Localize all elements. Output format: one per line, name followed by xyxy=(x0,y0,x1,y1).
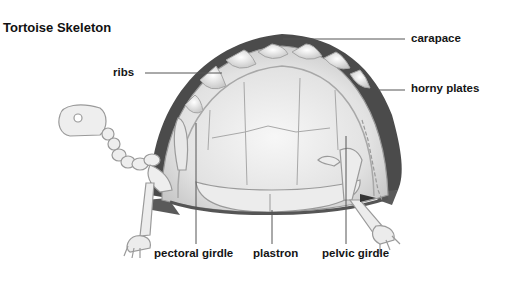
label-horny-plates: horny plates xyxy=(411,82,479,94)
label-ribs: ribs xyxy=(113,66,134,78)
label-plastron: plastron xyxy=(253,247,298,259)
label-pelvic-girdle: pelvic girdle xyxy=(322,247,389,259)
front-leg xyxy=(124,183,154,258)
label-carapace: carapace xyxy=(411,32,461,44)
skull-and-neck xyxy=(59,105,172,192)
label-pectoral-girdle: pectoral girdle xyxy=(154,247,233,259)
